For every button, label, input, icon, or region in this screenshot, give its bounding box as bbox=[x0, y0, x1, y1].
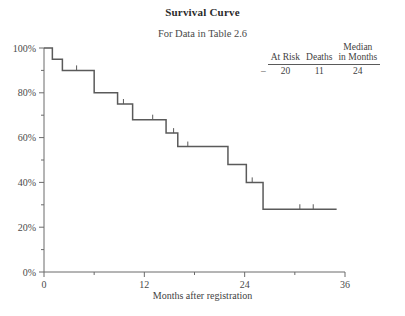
censor-marks bbox=[77, 65, 314, 209]
survival-curve-figure: Survival Curve For Data in Table 2.6 – A… bbox=[0, 0, 405, 316]
step-path bbox=[44, 48, 337, 209]
y-tick-label: 100% bbox=[13, 43, 36, 54]
x-tick-label: 12 bbox=[139, 279, 149, 290]
y-tick-label: 40% bbox=[18, 177, 36, 188]
y-axis: 0%20%40%60%80%100% bbox=[13, 43, 44, 278]
y-tick-label: 80% bbox=[18, 87, 36, 98]
y-tick-label: 60% bbox=[18, 132, 36, 143]
x-tick-label: 36 bbox=[340, 279, 350, 290]
x-tick-label: 24 bbox=[240, 279, 250, 290]
plot-area: 0%20%40%60%80%100% 0122436 bbox=[0, 0, 405, 316]
x-axis-label: Months after registration bbox=[0, 290, 405, 301]
x-tick-label: 0 bbox=[42, 279, 47, 290]
y-tick-label: 0% bbox=[23, 267, 36, 278]
y-tick-label: 20% bbox=[18, 222, 36, 233]
x-axis: 0122436 bbox=[42, 272, 351, 290]
survival-step-curve bbox=[44, 48, 337, 209]
